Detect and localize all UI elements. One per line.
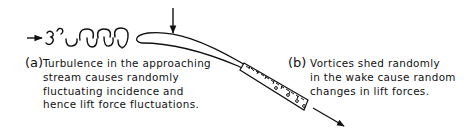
outgoing-flow-arrow-icon	[313, 108, 344, 126]
panel-b-line-3: changes in lift forces.	[310, 85, 456, 99]
panel-b-caption: Vortices shed randomly in the wake cause…	[310, 57, 456, 98]
turbulent-eddies-icon	[46, 28, 128, 48]
panel-a-line-3: fluctuating incidence and	[43, 85, 211, 99]
panel-a-line-2: stream causes randomly	[43, 71, 211, 85]
panel-a-line-4: hence lift force fluctuations.	[43, 98, 211, 112]
panel-a-line-1: Turbulence in the approaching	[43, 57, 211, 71]
panel-a-caption: Turbulence in the approaching stream cau…	[43, 57, 211, 112]
panel-a-label: (a)	[25, 56, 43, 70]
panel-b-line-1: Vortices shed randomly	[310, 57, 456, 71]
panel-b-line-2: in the wake cause random	[310, 71, 456, 85]
panel-b-label: (b)	[288, 56, 306, 70]
wake-vortices-icon	[240, 63, 308, 110]
